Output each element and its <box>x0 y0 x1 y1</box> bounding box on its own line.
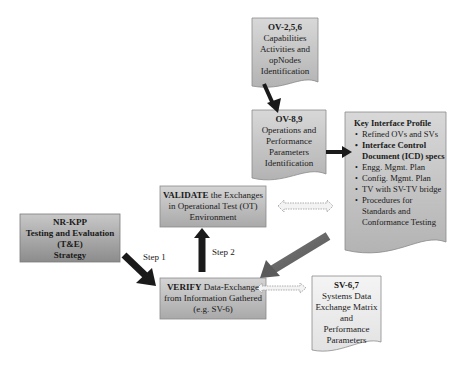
ov256-line-4: Identification <box>252 66 318 77</box>
verify-node: VERIFY Data-Exchange from Information Ga… <box>160 282 266 315</box>
ov89-node: OV-8,9 Operations and Performance Parame… <box>252 114 326 169</box>
kip-item-6: Procedures for Standards and Conformance… <box>354 195 446 228</box>
nrkpp-line-2: Testing and Evaluation <box>20 228 120 239</box>
ov256-line-1: Capabilities <box>252 33 318 44</box>
nrkpp-line-3: (T&E) <box>20 239 120 250</box>
validate-line-1-rest: the Exchanges <box>209 190 263 200</box>
kip-item-1: Refined OVs and SVs <box>354 129 446 140</box>
sv67-line-4: Performance <box>312 324 381 335</box>
step1-label: Step 1 <box>143 252 166 262</box>
validate-line-3: Environment <box>160 212 266 223</box>
ov256-line-2: Activities and <box>252 44 318 55</box>
kip-node: Key Interface Profile Refined OVs and SV… <box>354 118 446 228</box>
sv67-title: SV-6,7 <box>312 280 381 291</box>
ov89-line-1: Operations and <box>252 125 326 136</box>
kip-list: Refined OVs and SVs Interface Control Do… <box>354 129 446 228</box>
ov89-line-4: Identification <box>252 158 326 169</box>
ov89-title: OV-8,9 <box>252 114 326 125</box>
kip-item-3: Engg. Mgmt. Plan <box>354 162 446 173</box>
sv67-line-1: Systems Data <box>312 291 381 302</box>
sv67-line-3: and <box>312 313 381 324</box>
sv67-line-2: Exchange Matrix <box>312 302 381 313</box>
kip-item-2: Interface Control Document (ICD) specs <box>354 140 446 162</box>
validate-line-2: in Operational Test (OT) <box>160 201 266 212</box>
kip-title: Key Interface Profile <box>354 118 446 129</box>
verify-line-1-rest: Data-Exchange <box>201 282 259 292</box>
step2-label: Step 2 <box>212 247 235 257</box>
kip-item-4: Config. Mgmt. Plan <box>354 173 446 184</box>
ov89-line-2: Performance <box>252 136 326 147</box>
kip-item-5: TV with SV-TV bridge <box>354 184 446 195</box>
nrkpp-node: NR-KPP Testing and Evaluation (T&E) Stra… <box>20 217 120 261</box>
nrkpp-line-4: Strategy <box>20 250 120 261</box>
sv67-line-5: Parameters <box>312 335 381 346</box>
verify-keyword: VERIFY <box>167 282 202 292</box>
validate-keyword: VALIDATE <box>163 190 209 200</box>
double-arrow-validate-kip <box>278 200 333 212</box>
validate-node: VALIDATE the Exchanges in Operational Te… <box>160 190 266 223</box>
ov89-line-3: Parameters <box>252 147 326 158</box>
arrow-ov256-to-ov89 <box>264 84 281 113</box>
ov256-title: OV-2,5,6 <box>252 22 318 33</box>
sv67-node: SV-6,7 Systems Data Exchange Matrix and … <box>312 280 381 346</box>
verify-line-2: from Information Gathered <box>160 293 266 304</box>
arrow-step2 <box>194 228 210 272</box>
ov256-line-3: opNodes <box>252 55 318 66</box>
arrow-kip-to-verify <box>260 236 328 278</box>
ov256-node: OV-2,5,6 Capabilities Activities and opN… <box>252 22 318 77</box>
nrkpp-line-1: NR-KPP <box>20 217 120 228</box>
verify-line-3: (e.g. SV-6) <box>160 304 266 315</box>
